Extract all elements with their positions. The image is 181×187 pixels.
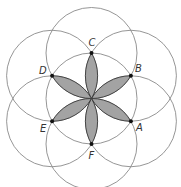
shaded-petals [52,53,131,144]
point-c [90,51,94,55]
label-a: A [135,122,143,133]
label-f: F [89,150,95,161]
rosette-diagram: ABCDEF [0,0,181,187]
label-e: E [40,123,47,134]
label-b: B [135,63,142,74]
point-a [129,119,133,123]
point-d [50,74,54,78]
point-f [90,142,94,146]
point-e [50,119,54,123]
label-d: D [39,65,47,76]
label-c: C [89,37,96,48]
point-b [129,74,133,78]
